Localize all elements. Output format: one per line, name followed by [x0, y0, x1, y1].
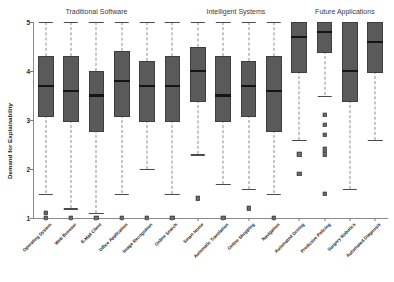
- box-plot-item: [317, 22, 333, 218]
- y-tick-mark: [30, 218, 33, 219]
- outlier-marker: [322, 191, 326, 195]
- box-rect: [139, 61, 155, 122]
- whisker-upper: [172, 22, 173, 56]
- cap-upper: [38, 22, 52, 23]
- x-tick-mark: [45, 218, 46, 221]
- box-plot-item: [367, 22, 383, 218]
- whisker-lower: [248, 115, 249, 189]
- y-tick-label: 4: [21, 68, 30, 75]
- box-rect: [291, 22, 307, 73]
- outlier-marker: [322, 147, 326, 151]
- boxplot-chart: Demand for Explainability 12345 Traditio…: [0, 0, 394, 282]
- box-rect: [190, 47, 206, 103]
- x-tick-mark: [273, 218, 274, 221]
- box-plot-item: [190, 22, 206, 218]
- cap-upper: [241, 22, 255, 23]
- x-tick-mark: [71, 218, 72, 221]
- cap-lower: [191, 154, 205, 155]
- x-tick-mark: [172, 218, 173, 221]
- box-plot-item: [139, 22, 155, 218]
- box-plot-item: [215, 22, 231, 218]
- cap-lower: [343, 189, 357, 190]
- whisker-lower: [349, 100, 350, 188]
- median-line: [367, 41, 383, 43]
- whisker-upper: [96, 22, 97, 71]
- whisker-lower: [172, 120, 173, 194]
- box-plot-item: [63, 22, 79, 218]
- whisker-lower: [147, 120, 148, 169]
- x-axis-label: Web Browser: [54, 222, 78, 246]
- whisker-upper: [273, 22, 274, 56]
- cap-lower: [292, 140, 306, 141]
- x-tick-mark: [96, 218, 97, 221]
- cap-lower: [368, 140, 382, 141]
- plot-area: [33, 22, 388, 218]
- box-plot-item: [342, 22, 358, 218]
- x-axis-label: E-Mail Client: [80, 222, 103, 245]
- median-line: [38, 85, 54, 87]
- y-tick-mark: [30, 120, 33, 121]
- box-rect: [89, 71, 105, 132]
- median-line: [89, 94, 105, 96]
- x-tick-mark: [121, 218, 122, 221]
- box-plot-item: [89, 22, 105, 218]
- x-tick-mark: [197, 218, 198, 221]
- outlier-marker: [196, 196, 200, 200]
- outlier-marker: [322, 113, 326, 117]
- cap-upper: [115, 22, 129, 23]
- cap-lower: [89, 213, 103, 214]
- x-tick-mark: [375, 218, 376, 221]
- cap-lower: [267, 194, 281, 195]
- x-tick-mark: [147, 218, 148, 221]
- box-plot-item: [291, 22, 307, 218]
- y-tick-mark: [30, 22, 33, 23]
- whisker-lower: [197, 100, 198, 154]
- y-tick-mark: [30, 71, 33, 72]
- median-line: [241, 85, 257, 87]
- cap-lower: [241, 189, 255, 190]
- cap-lower: [64, 208, 78, 209]
- whisker-lower: [299, 71, 300, 140]
- box-plot-item: [114, 22, 130, 218]
- box-plot-item: [38, 22, 54, 218]
- whisker-upper: [147, 22, 148, 61]
- whisker-lower: [223, 120, 224, 184]
- box-rect: [367, 22, 383, 73]
- median-line: [165, 85, 181, 87]
- whisker-lower: [273, 130, 274, 194]
- x-axis-line: [33, 218, 388, 219]
- median-line: [342, 70, 358, 72]
- y-axis-title: Demand for Explainability: [6, 103, 13, 179]
- box-rect: [241, 61, 257, 117]
- median-line: [63, 90, 79, 92]
- group-header: Intelligent Systems: [206, 8, 265, 15]
- box-plot-item: [266, 22, 282, 218]
- outlier-marker: [322, 152, 326, 156]
- whisker-lower: [324, 51, 325, 95]
- cap-lower: [165, 194, 179, 195]
- cap-upper: [140, 22, 154, 23]
- outlier-marker: [43, 211, 47, 215]
- x-tick-mark: [349, 218, 350, 221]
- box-rect: [342, 22, 358, 102]
- x-axis-label: Operating System: [21, 222, 52, 253]
- whisker-lower: [45, 115, 46, 193]
- box-rect: [266, 56, 282, 132]
- median-line: [317, 31, 333, 33]
- whisker-lower: [96, 130, 97, 213]
- cap-lower: [216, 184, 230, 185]
- outlier-marker: [322, 123, 326, 127]
- whisker-lower: [121, 115, 122, 193]
- x-tick-mark: [299, 218, 300, 221]
- y-tick-label: 1: [21, 215, 30, 222]
- box-plot-item: [241, 22, 257, 218]
- cap-upper: [64, 22, 78, 23]
- box-rect: [215, 56, 231, 122]
- box-plot-item: [165, 22, 181, 218]
- x-tick-mark: [324, 218, 325, 221]
- x-tick-mark: [223, 218, 224, 221]
- cap-upper: [165, 22, 179, 23]
- whisker-upper: [197, 22, 198, 47]
- y-tick-label: 2: [21, 166, 30, 173]
- cap-lower: [140, 169, 154, 170]
